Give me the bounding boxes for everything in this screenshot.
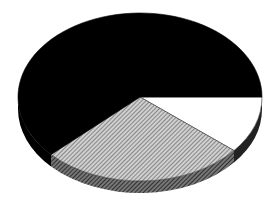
- pie-chart: [0, 0, 279, 202]
- pie-top-faces: [18, 13, 262, 181]
